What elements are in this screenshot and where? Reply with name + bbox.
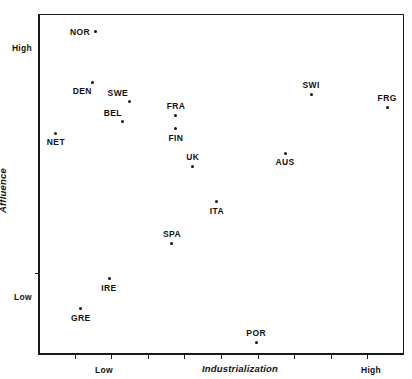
scatter-plot-figure: NORDENSWEBELNETFRAFINUKSWIFRGAUSITASPAIR…	[0, 0, 412, 379]
x-axis-tick-label: High	[361, 365, 381, 375]
data-point-marker	[128, 100, 131, 103]
data-point-label: FIN	[169, 134, 184, 143]
data-point-label: POR	[246, 329, 266, 338]
y-axis-tick-label: High	[12, 43, 32, 53]
data-point-marker	[284, 152, 287, 155]
x-axis-title: Industrialization	[202, 363, 278, 374]
x-axis-tick-label: Low	[95, 365, 113, 375]
data-point-marker	[215, 200, 218, 203]
plot-area: NORDENSWEBELNETFRAFINUKSWIFRGAUSITASPAIR…	[38, 14, 404, 355]
data-point-marker	[255, 341, 258, 344]
x-axis-tick	[184, 355, 185, 359]
data-point-label: BEL	[104, 109, 122, 118]
data-point-label: DEN	[73, 87, 92, 96]
data-point-marker	[108, 277, 111, 280]
data-point-label: NET	[47, 138, 65, 147]
data-point-label: SWE	[108, 89, 129, 98]
x-axis-tick	[294, 355, 295, 359]
x-axis-tick	[367, 355, 368, 359]
y-axis-tick-label: Low	[14, 292, 32, 302]
data-point-label: UK	[186, 153, 199, 162]
data-point-marker	[94, 30, 97, 33]
data-point-label: NOR	[70, 28, 90, 37]
x-axis-tick	[111, 355, 112, 359]
data-point-marker	[310, 93, 313, 96]
data-point-label: SPA	[163, 230, 181, 239]
x-axis-tick	[148, 355, 149, 359]
data-point-label: SWI	[302, 81, 319, 90]
data-point-label: AUS	[275, 158, 294, 167]
x-axis-tick	[221, 355, 222, 359]
x-axis-tick	[75, 355, 76, 359]
data-point-label: ITA	[210, 207, 224, 216]
data-point-label: IRE	[101, 284, 116, 293]
data-point-marker	[170, 242, 173, 245]
y-axis-title: Affluence	[0, 168, 8, 213]
data-point-marker	[121, 120, 124, 123]
data-point-label: FRA	[167, 102, 186, 111]
y-axis-tick	[35, 273, 39, 274]
data-point-marker	[174, 114, 177, 117]
data-point-label: GRE	[71, 314, 91, 323]
data-point-marker	[386, 106, 389, 109]
data-point-marker	[174, 127, 177, 130]
data-point-marker	[54, 132, 57, 135]
data-point-label: FRG	[378, 94, 397, 103]
x-axis-tick	[331, 355, 332, 359]
data-point-marker	[191, 165, 194, 168]
x-axis-tick	[258, 355, 259, 359]
data-point-marker	[79, 307, 82, 310]
data-point-marker	[91, 81, 94, 84]
